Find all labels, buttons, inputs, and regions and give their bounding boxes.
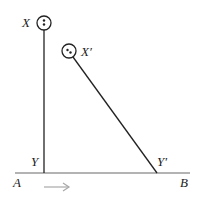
right-arrow-icon bbox=[44, 183, 69, 191]
label-y: Y bbox=[31, 154, 40, 169]
rod-xprime-yprime bbox=[73, 57, 157, 173]
pivot-xprime-circle bbox=[62, 44, 76, 58]
pivot-xprime-dot bbox=[69, 51, 71, 53]
label-b: B bbox=[180, 175, 188, 190]
pivot-xprime-dot bbox=[66, 49, 68, 51]
pivot-x-dot bbox=[43, 23, 45, 25]
label-x: X bbox=[21, 15, 31, 30]
label-a: A bbox=[12, 175, 21, 190]
label-x-prime: X′ bbox=[80, 44, 92, 59]
label-y-prime: Y′ bbox=[157, 154, 167, 169]
pivot-x-dot bbox=[43, 19, 45, 21]
pivot-x-circle bbox=[37, 16, 51, 30]
pendulum-diagram: X X′ Y Y′ A B bbox=[0, 0, 198, 201]
